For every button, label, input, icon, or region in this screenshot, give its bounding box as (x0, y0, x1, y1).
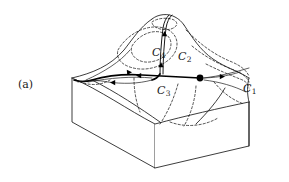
label-c2: C2 (178, 50, 191, 63)
label-c1: C1 (243, 82, 256, 95)
label-c2-sub: 2 (187, 55, 192, 64)
label-c2-base: C (178, 50, 186, 63)
label-c4-sub: 4 (161, 51, 166, 60)
label-c3-base: C (157, 84, 165, 97)
saddle-point-marker (197, 75, 204, 82)
label-c1-sub: 1 (252, 87, 257, 96)
label-c3-sub: 3 (166, 89, 171, 98)
label-c3: C3 (157, 84, 170, 97)
figure-panel: (a) C4 C2 C3 C1 (0, 0, 289, 182)
label-c1-base: C (243, 82, 251, 95)
panel-label: (a) (18, 78, 33, 91)
label-c4: C4 (152, 46, 165, 59)
label-c4-base: C (152, 46, 160, 59)
